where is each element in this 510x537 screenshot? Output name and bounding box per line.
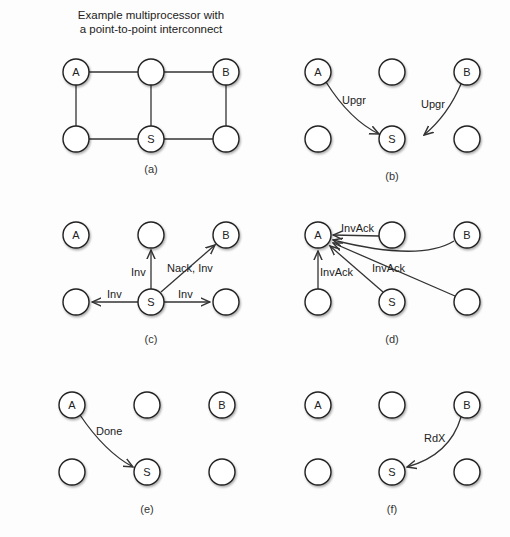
label-invack-top: InvAck	[341, 222, 375, 234]
node-top-middle	[134, 392, 160, 418]
title-line-2: a point-to-point interconnect	[80, 23, 223, 35]
node-b: B	[454, 392, 480, 418]
svg-text:A: A	[314, 399, 322, 411]
svg-text:B: B	[463, 399, 470, 411]
arrow-invack-top-middle	[333, 235, 379, 236]
svg-text:B: B	[463, 229, 470, 241]
label-inv-right: Inv	[178, 288, 193, 300]
node-bottom-right	[209, 459, 235, 485]
node-a: A	[63, 222, 89, 248]
node-top-middle	[379, 392, 405, 418]
node-s: S	[379, 289, 405, 315]
label-inv-left: Inv	[107, 288, 122, 300]
node-bottom-right	[454, 289, 480, 315]
node-top-middle	[138, 59, 164, 85]
panel-c: Inv Nack, Inv Inv Inv A B S (c)	[63, 222, 239, 345]
node-b: B	[213, 59, 239, 85]
node-b: B	[454, 59, 480, 85]
label-invack-left: InvAck	[320, 266, 354, 278]
node-bottom-left	[63, 289, 89, 315]
node-s: S	[138, 289, 164, 315]
panel-b: Upgr Upgr A B S (b)	[305, 59, 480, 182]
node-top-middle	[379, 222, 405, 248]
svg-text:B: B	[222, 229, 229, 241]
node-top-middle	[379, 59, 405, 85]
svg-text:A: A	[314, 66, 322, 78]
arrow-upgr-a-to-s	[326, 82, 379, 134]
svg-text:A: A	[72, 66, 80, 78]
node-bottom-right	[213, 126, 239, 152]
label-rdx: RdX	[424, 432, 446, 444]
node-bottom-left	[305, 289, 331, 315]
node-bottom-right	[454, 459, 480, 485]
node-s: S	[134, 459, 160, 485]
node-bottom-right	[213, 289, 239, 315]
arrow-done-a-to-s	[80, 415, 133, 467]
node-bottom-left	[305, 459, 331, 485]
node-a: A	[305, 392, 331, 418]
caption-c: (c)	[145, 333, 158, 345]
caption-f: (f)	[387, 503, 397, 515]
label-inv-up: Inv	[131, 266, 146, 278]
node-top-middle	[138, 222, 164, 248]
node-s: S	[379, 459, 405, 485]
node-bottom-right	[454, 126, 480, 152]
node-s: S	[379, 126, 405, 152]
svg-text:S: S	[147, 133, 154, 145]
svg-text:A: A	[72, 229, 80, 241]
node-b: B	[213, 222, 239, 248]
svg-text:B: B	[463, 66, 470, 78]
caption-e: (e)	[140, 503, 153, 515]
svg-text:S: S	[388, 466, 395, 478]
svg-text:A: A	[314, 229, 322, 241]
svg-text:S: S	[388, 296, 395, 308]
node-bottom-left	[59, 459, 85, 485]
title-line-1: Example multiprocessor with	[78, 9, 224, 21]
svg-text:S: S	[388, 133, 395, 145]
panel-a: A B S (a)	[63, 59, 239, 175]
node-s: S	[138, 126, 164, 152]
svg-text:B: B	[218, 399, 225, 411]
node-b: B	[209, 392, 235, 418]
svg-text:S: S	[143, 466, 150, 478]
svg-text:A: A	[68, 399, 76, 411]
panel-f: RdX A B S (f)	[305, 392, 480, 515]
node-a: A	[59, 392, 85, 418]
node-a: A	[305, 59, 331, 85]
label-upgr-a: Upgr	[342, 94, 366, 106]
coherence-protocol-diagram: Example multiprocessor with a point-to-p…	[0, 0, 510, 537]
panel-e: Done A B S (e)	[59, 392, 235, 515]
node-bottom-left	[305, 126, 331, 152]
caption-a: (a)	[144, 163, 157, 175]
node-a: A	[63, 59, 89, 85]
svg-text:B: B	[222, 66, 229, 78]
caption-b: (b)	[385, 170, 398, 182]
label-upgr-b: Upgr	[421, 98, 445, 110]
node-bottom-left	[63, 126, 89, 152]
node-a: A	[305, 222, 331, 248]
caption-d: (d)	[385, 333, 398, 345]
panel-d: InvAck InvAck InvAck A B S (d)	[305, 222, 480, 345]
label-nack-inv: Nack, Inv	[167, 262, 213, 274]
svg-text:S: S	[147, 296, 154, 308]
node-b: B	[454, 222, 480, 248]
label-done: Done	[96, 425, 122, 437]
label-invack-mid: InvAck	[372, 262, 406, 274]
